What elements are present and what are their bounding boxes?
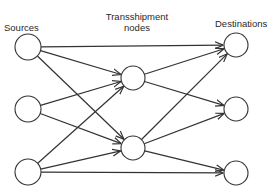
transshipment-label-line1: Transshipment: [97, 11, 177, 22]
edge-t2-to-d2: [144, 113, 224, 143]
nodes-layer: [15, 33, 248, 185]
sources-label: Sources: [4, 22, 39, 33]
destination-node-d1: [224, 33, 248, 57]
edge-t2-to-d3: [145, 151, 224, 170]
source-node-s3: [15, 159, 41, 185]
edge-t1-to-d2: [145, 82, 225, 106]
transshipment-label-line2: nodes: [97, 22, 177, 33]
transshipment-nodes-label: Transshipment nodes: [97, 11, 177, 33]
source-node-s1: [15, 34, 41, 60]
edge-s3-to-d3: [41, 172, 224, 173]
destinations-label: Destinations: [215, 18, 267, 29]
edge-s2-to-t1: [41, 82, 122, 106]
destination-node-d3: [224, 161, 248, 185]
source-node-s2: [15, 96, 41, 122]
edge-s2-to-t2: [40, 114, 121, 144]
edge-t1-to-d1: [144, 49, 224, 75]
edge-s1-to-d1: [41, 45, 224, 47]
transshipment-node-t1: [121, 66, 145, 90]
edge-s3-to-t2: [41, 151, 121, 169]
destination-node-d2: [224, 97, 248, 121]
transshipment-node-t2: [121, 136, 145, 160]
edge-t2-to-d1: [142, 54, 228, 140]
